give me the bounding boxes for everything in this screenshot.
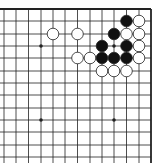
white-stone	[84, 52, 96, 64]
black-stone	[96, 52, 108, 64]
white-stone	[133, 15, 145, 27]
black-stone	[108, 28, 120, 40]
white-stone	[96, 65, 108, 77]
white-stone	[121, 65, 133, 77]
white-stone	[133, 28, 145, 40]
black-stone	[96, 40, 108, 52]
black-stone	[108, 52, 120, 64]
white-stone	[47, 28, 59, 40]
go-board	[0, 0, 158, 163]
star-point	[39, 118, 43, 122]
white-stone	[133, 40, 145, 52]
white-stone	[121, 28, 133, 40]
black-stone	[121, 52, 133, 64]
white-stone	[108, 65, 120, 77]
white-stone	[72, 52, 84, 64]
black-stone	[121, 40, 133, 52]
star-point	[112, 44, 116, 48]
star-point	[39, 44, 43, 48]
star-point	[112, 118, 116, 122]
white-stone	[72, 28, 84, 40]
white-stone	[133, 52, 145, 64]
black-stone	[121, 15, 133, 27]
